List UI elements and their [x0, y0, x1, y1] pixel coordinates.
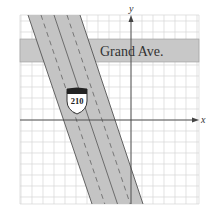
interstate-shield-icon: 210 — [67, 88, 87, 115]
y-axis-label: y — [128, 3, 134, 14]
shield-number: 210 — [71, 96, 84, 106]
grand-ave-label: Grand Ave. — [100, 44, 164, 59]
coordinate-diagram: Grand Ave. x y 210 — [0, 0, 211, 221]
x-axis-arrow-icon — [192, 118, 199, 123]
y-axis-arrow-icon — [129, 15, 134, 22]
x-axis-label: x — [200, 114, 206, 125]
